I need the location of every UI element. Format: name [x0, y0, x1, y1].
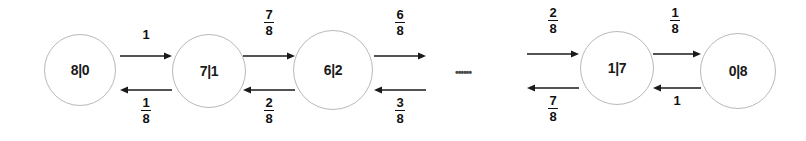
fraction-denominator: 8: [395, 110, 404, 125]
fraction-denominator: 8: [548, 20, 557, 35]
arrow-6-2-to-7-1: [243, 85, 295, 95]
ellipsis-continuation: ••••••: [455, 66, 471, 78]
node-0-8[interactable]: 0|8: [700, 33, 776, 109]
edge-weight-fraction: 2 8: [264, 96, 273, 125]
fraction-denominator: 8: [548, 108, 557, 123]
fraction-denominator: 8: [395, 22, 404, 37]
arrow-6-2-to-continuation: [374, 51, 426, 61]
edge-label-continuation-to-6-2: 3 8: [374, 96, 426, 125]
fraction-numerator: 2: [264, 96, 273, 110]
fraction-numerator: 6: [395, 8, 404, 22]
edge-label-continuation-to-1-7: 2 8: [527, 6, 579, 35]
node-label: 7|1: [200, 63, 219, 79]
edge-label-8-0-to-7-1: 1: [120, 28, 172, 41]
fraction-denominator: 8: [264, 22, 273, 37]
edge-weight-fraction: 3 8: [395, 96, 404, 125]
edge-label-1-7-to-continuation: 7 8: [527, 94, 579, 123]
node-6-2[interactable]: 6|2: [293, 30, 373, 110]
node-1-7[interactable]: 1|7: [580, 31, 654, 105]
edge-weight-value: 1: [142, 28, 149, 41]
arrow-1-7-to-0-8: [653, 49, 701, 59]
edge-weight-fraction: 2 8: [548, 6, 557, 35]
fraction-numerator: 1: [141, 96, 150, 110]
edge-label-6-2-to-7-1: 2 8: [243, 96, 295, 125]
edge-label-7-1-to-8-0: 1 8: [120, 96, 172, 125]
fraction-numerator: 2: [548, 6, 557, 20]
arrow-0-8-to-1-7: [653, 83, 701, 93]
edge-label-1-7-to-0-8: 1 8: [651, 6, 699, 35]
edge-weight-fraction: 1 8: [141, 96, 150, 125]
edge-weight-value: 1: [673, 94, 680, 107]
arrow-continuation-to-6-2: [374, 85, 426, 95]
arrow-1-7-to-continuation: [527, 83, 579, 93]
edge-weight-fraction: 6 8: [395, 8, 404, 37]
edge-weight-fraction: 1 8: [670, 6, 679, 35]
fraction-numerator: 1: [670, 6, 679, 20]
fraction-numerator: 7: [264, 8, 273, 22]
arrow-7-1-to-6-2: [243, 51, 295, 61]
fraction-denominator: 8: [670, 20, 679, 35]
node-label: 1|7: [608, 60, 627, 76]
fraction-numerator: 3: [395, 96, 404, 110]
markov-chain-diagram: 8|0 7|1 6|2 1|7 0|8 •••••• 1 1 8: [0, 0, 806, 141]
arrow-continuation-to-1-7: [527, 49, 579, 59]
arrow-7-1-to-8-0: [120, 85, 172, 95]
node-label: 6|2: [324, 62, 343, 78]
node-7-1[interactable]: 7|1: [172, 34, 246, 108]
edge-weight-fraction: 7 8: [548, 94, 557, 123]
edge-label-6-2-to-continuation: 6 8: [374, 8, 426, 37]
edge-weight-fraction: 7 8: [264, 8, 273, 37]
node-8-0[interactable]: 8|0: [44, 34, 116, 106]
fraction-denominator: 8: [141, 110, 150, 125]
arrow-8-0-to-7-1: [120, 51, 172, 61]
node-label: 0|8: [729, 63, 748, 79]
edge-label-7-1-to-6-2: 7 8: [243, 8, 295, 37]
fraction-denominator: 8: [264, 110, 273, 125]
fraction-numerator: 7: [548, 94, 557, 108]
node-label: 8|0: [71, 62, 90, 78]
edge-label-0-8-to-1-7: 1: [653, 94, 701, 107]
